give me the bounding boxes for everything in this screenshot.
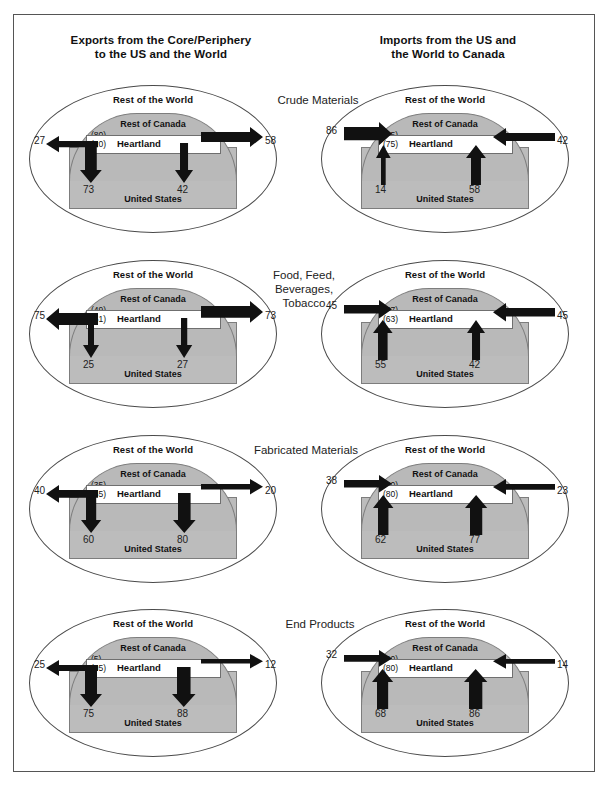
value-down-left: 25	[83, 359, 94, 370]
value-down-right: 42	[177, 184, 188, 195]
arrow-import-up-left	[371, 669, 394, 709]
arrow-import-right	[493, 126, 555, 148]
arrow-import-up-right	[463, 669, 488, 709]
value-down-right: 80	[177, 534, 188, 545]
column-title-exports-line1: Exports from the Core/Periphery	[36, 33, 286, 47]
value-left: 38	[321, 475, 337, 486]
diagram-imports-row2: Rest of the WorldRest of Canada(37)Unite…	[321, 260, 569, 408]
value-down-right: 77	[469, 534, 480, 545]
value-right: 73	[265, 310, 276, 321]
arrow-export-down-right	[171, 667, 197, 707]
arrow-import-up-left	[372, 320, 394, 360]
region-label-heartland: Heartland	[409, 662, 453, 673]
region-label-world: Rest of the World	[321, 618, 569, 629]
column-title-exports-line2: to the US and the World	[36, 47, 286, 61]
arrow-export-down-left	[79, 667, 103, 707]
arrow-import-up-right	[465, 145, 487, 185]
value-left: 75	[29, 310, 45, 321]
value-down-left: 73	[83, 184, 94, 195]
arrow-export-down-left	[79, 143, 103, 183]
arrow-import-right	[493, 652, 555, 671]
arrow-import-left	[344, 298, 392, 320]
region-label-world: Rest of the World	[321, 94, 569, 105]
region-label-us: United States	[69, 544, 237, 554]
value-left: 32	[321, 649, 337, 660]
value-right: 23	[557, 485, 568, 496]
column-title-exports: Exports from the Core/Periphery to the U…	[36, 33, 286, 61]
diagram-imports-row4: Rest of the WorldRest of Canada(20)Unite…	[321, 609, 569, 757]
arrow-import-left	[344, 473, 392, 495]
arrow-export-right	[201, 299, 263, 325]
value-right: 45	[557, 310, 568, 321]
arrow-export-down-left	[80, 493, 102, 533]
arrow-import-up-left	[375, 145, 392, 185]
region-label-world: Rest of the World	[321, 269, 569, 280]
arrow-import-left	[344, 648, 392, 669]
value-down-left: 68	[375, 708, 386, 719]
value-right: 20	[265, 485, 276, 496]
region-label-us: United States	[361, 369, 529, 379]
region-label-us: United States	[69, 718, 237, 728]
arrow-export-down-right	[175, 318, 193, 358]
region-label-heartland: Heartland	[117, 488, 161, 499]
region-label-us: United States	[69, 194, 237, 204]
region-label-heartland: Heartland	[117, 138, 161, 149]
region-label-us: United States	[361, 194, 529, 204]
value-left: 40	[29, 485, 45, 496]
diagram-imports-row1: Rest of the WorldRest of Canada(25)Unite…	[321, 85, 569, 233]
value-down-left: 62	[375, 534, 386, 545]
value-down-right: 86	[469, 708, 480, 719]
arrow-export-right	[201, 652, 263, 670]
arrow-import-right	[493, 477, 555, 497]
region-label-world: Rest of the World	[29, 444, 277, 455]
arrow-import-up-left	[372, 495, 394, 535]
arrow-export-down-right	[172, 493, 197, 533]
value-down-left: 75	[83, 708, 94, 719]
value-down-left: 60	[83, 534, 94, 545]
region-label-heartland: Heartland	[409, 138, 453, 149]
region-label-world: Rest of the World	[321, 444, 569, 455]
value-right: 58	[265, 135, 276, 146]
value-down-left: 55	[375, 359, 386, 370]
value-left: 27	[29, 135, 45, 146]
value-right: 42	[557, 135, 568, 146]
value-left: 25	[29, 659, 45, 670]
value-down-right: 27	[177, 359, 188, 370]
column-title-imports: Imports from the US and the World to Can…	[328, 33, 568, 61]
arrow-import-right	[493, 301, 555, 323]
region-label-heartland: Heartland	[117, 662, 161, 673]
region-label-world: Rest of the World	[29, 269, 277, 280]
arrow-import-left	[344, 120, 392, 147]
region-label-heartland: Heartland	[409, 488, 453, 499]
value-down-left: 14	[375, 184, 386, 195]
value-down-right: 42	[469, 359, 480, 370]
region-label-heartland: Heartland	[117, 313, 161, 324]
region-label-heartland: Heartland	[409, 313, 453, 324]
value-left: 45	[321, 300, 337, 311]
arrow-import-up-right	[466, 320, 486, 360]
arrow-export-down-left	[82, 318, 100, 358]
arrow-export-down-right	[174, 143, 194, 183]
diagram-exports-row4: Rest of the WorldRest of Canada(5)United…	[29, 609, 277, 757]
arrow-export-right	[201, 125, 263, 149]
diagram-imports-row3: Rest of the WorldRest of Canada(20)Unite…	[321, 435, 569, 583]
diagram-exports-row1: Rest of the WorldRest of Canada(80)Unite…	[29, 85, 277, 233]
value-right: 12	[265, 659, 276, 670]
diagram-exports-row3: Rest of the WorldRest of Canada(35)Unite…	[29, 435, 277, 583]
value-right: 14	[557, 659, 568, 670]
region-label-world: Rest of the World	[29, 618, 277, 629]
arrow-export-right	[201, 477, 263, 496]
diagram-exports-row2: Rest of the WorldRest of Canada(49)Unite…	[29, 260, 277, 408]
arrow-import-up-right	[464, 495, 488, 535]
region-label-us: United States	[361, 544, 529, 554]
value-down-right: 58	[469, 184, 480, 195]
region-label-us: United States	[361, 718, 529, 728]
value-left: 86	[321, 125, 337, 136]
column-title-imports-line1: Imports from the US and	[328, 33, 568, 47]
column-title-imports-line2: the World to Canada	[328, 47, 568, 61]
figure-frame: Exports from the Core/Periphery to the U…	[13, 14, 595, 772]
value-down-right: 88	[177, 708, 188, 719]
region-label-us: United States	[69, 369, 237, 379]
region-label-world: Rest of the World	[29, 94, 277, 105]
